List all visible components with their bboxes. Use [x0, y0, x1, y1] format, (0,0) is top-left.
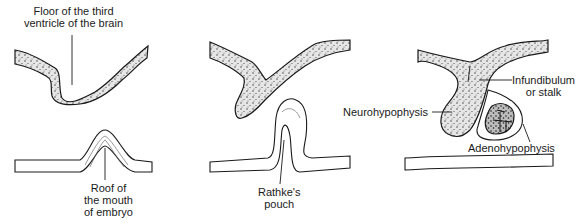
label-line: Rathke's: [258, 186, 300, 198]
label-line: pouch: [258, 198, 300, 210]
label-neurohypophysis: Neurohypophysis: [343, 106, 428, 118]
label-line: of embryo: [84, 206, 133, 218]
label-line: Floor of the third: [24, 5, 123, 17]
label-rathkes-pouch: Rathke's pouch: [258, 186, 300, 210]
adenohypophysis-leader: [523, 124, 530, 142]
stage1-brain-floor: [15, 35, 148, 105]
stage3-roof: [405, 154, 553, 170]
label-roof-of-mouth: Roof of the mouth of embryo: [84, 182, 133, 218]
label-line: Infundibulum: [512, 74, 575, 86]
label-line: Roof of: [84, 182, 133, 194]
label-line: or stalk: [512, 86, 575, 98]
label-line: the mouth: [84, 194, 133, 206]
label-line: Adenohypophysis: [468, 142, 555, 154]
label-line: ventricle of the brain: [24, 17, 123, 29]
label-line: Neurohypophysis: [343, 106, 428, 118]
label-adenohypophysis: Adenohypophysis: [468, 142, 555, 154]
label-infundibulum: Infundibulum or stalk: [512, 74, 575, 98]
stage1-mouth-roof: [15, 130, 152, 180]
stage2-rathkes-pouch: [210, 99, 350, 184]
label-floor-third-ventricle: Floor of the third ventricle of the brai…: [24, 5, 123, 29]
